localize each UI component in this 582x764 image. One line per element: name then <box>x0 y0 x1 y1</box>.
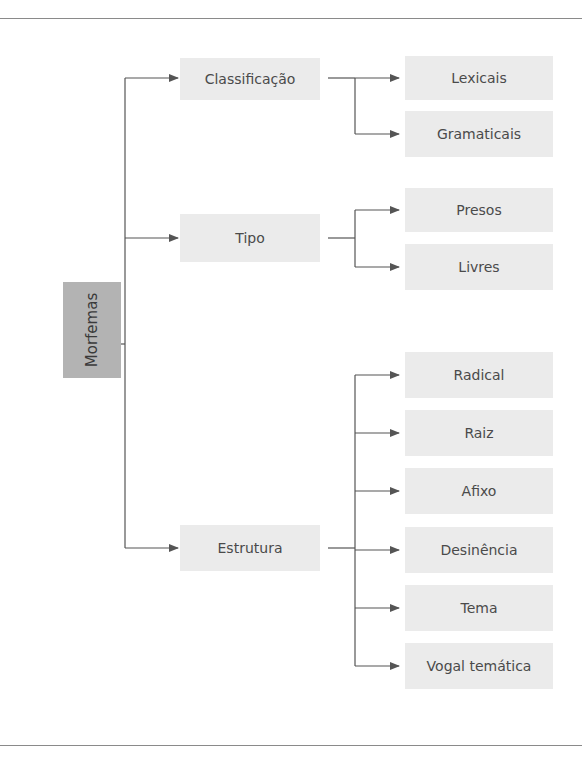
leaf-node-presos: Presos <box>405 188 553 232</box>
leaf-node-lexicais: Lexicais <box>405 56 553 100</box>
root-node-morfemas: Morfemas <box>63 282 121 378</box>
leaf-node-afixo: Afixo <box>405 468 553 514</box>
leaf-label: Raiz <box>464 425 493 441</box>
category-label: Tipo <box>235 230 264 246</box>
category-node-estrutura: Estrutura <box>180 525 320 571</box>
leaf-label: Presos <box>456 202 501 218</box>
leaf-node-tema: Tema <box>405 585 553 631</box>
leaf-node-vogal-tematica: Vogal temática <box>405 643 553 689</box>
category-node-tipo: Tipo <box>180 214 320 262</box>
leaf-node-raiz: Raiz <box>405 410 553 456</box>
category-label: Classificação <box>205 71 296 87</box>
leaf-label: Livres <box>458 259 499 275</box>
leaf-node-gramaticais: Gramaticais <box>405 111 553 157</box>
leaf-label: Afixo <box>462 483 497 499</box>
leaf-label: Radical <box>454 367 505 383</box>
leaf-node-livres: Livres <box>405 244 553 290</box>
category-node-classificacao: Classificação <box>180 58 320 100</box>
leaf-node-desinencia: Desinência <box>405 527 553 573</box>
leaf-node-radical: Radical <box>405 352 553 398</box>
leaf-label: Gramaticais <box>437 126 521 142</box>
root-label: Morfemas <box>83 293 101 367</box>
leaf-label: Desinência <box>440 542 517 558</box>
leaf-label: Tema <box>460 600 497 616</box>
leaf-label: Vogal temática <box>427 658 532 674</box>
category-label: Estrutura <box>218 540 283 556</box>
leaf-label: Lexicais <box>451 70 507 86</box>
